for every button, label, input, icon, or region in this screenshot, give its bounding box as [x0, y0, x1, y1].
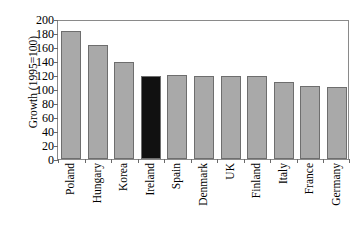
y-tick-label: 140	[22, 56, 54, 68]
x-tick-label: Germany	[328, 163, 344, 206]
x-tick-label: Poland	[62, 163, 78, 195]
bar	[194, 76, 214, 159]
y-tick-label: 60	[22, 112, 54, 124]
x-tick-label: Italy	[275, 163, 291, 184]
bar	[167, 75, 187, 159]
bar-chart-figure: Growth (1995=100) 0204060801001201401601…	[0, 0, 362, 236]
x-tick-label-text: Hungary	[89, 163, 105, 203]
x-tick-label: Spain	[168, 163, 184, 189]
x-tick-mark	[349, 159, 350, 163]
x-tick-label: France	[301, 163, 317, 194]
x-tick-label-text: Spain	[168, 163, 184, 189]
x-tick-label: Finland	[248, 163, 264, 198]
y-tick-label: 200	[22, 14, 54, 26]
y-tick-mark	[54, 34, 58, 35]
y-tick-mark	[54, 20, 58, 21]
x-tick-label-text: Denmark	[195, 163, 211, 206]
y-tick-label: 80	[22, 98, 54, 110]
x-tick-label-text: Korea	[115, 163, 131, 191]
x-tick-label: Denmark	[195, 163, 211, 206]
x-tick-label: Hungary	[89, 163, 105, 203]
y-axis-tick-labels: 020406080100120140160180200	[22, 20, 54, 160]
y-tick-label: 120	[22, 70, 54, 82]
bar	[300, 86, 320, 160]
x-tick-label-text: UK	[222, 163, 238, 180]
bar	[274, 82, 294, 159]
x-tick-label-text: Finland	[248, 163, 264, 198]
x-tick-label-text: Poland	[62, 163, 78, 195]
bar	[327, 87, 347, 159]
bar	[114, 62, 134, 159]
y-tick-mark	[54, 146, 58, 147]
bar	[221, 76, 241, 159]
x-tick-label: Ireland	[142, 163, 158, 196]
bar	[88, 45, 108, 159]
bar	[247, 76, 267, 159]
y-tick-label: 0	[22, 154, 54, 166]
bars-container	[58, 21, 348, 159]
y-tick-mark	[54, 118, 58, 119]
y-tick-label: 160	[22, 42, 54, 54]
y-tick-mark	[54, 90, 58, 91]
x-tick-label-text: Italy	[275, 163, 291, 184]
x-axis-tick-labels: PolandHungaryKoreaIrelandSpainDenmarkUKF…	[57, 163, 349, 236]
x-tick-label-text: Germany	[328, 163, 344, 206]
x-tick-label-text: Ireland	[142, 163, 158, 196]
y-tick-label: 20	[22, 140, 54, 152]
bar	[61, 31, 81, 159]
y-tick-mark	[54, 132, 58, 133]
x-tick-label-text: France	[301, 163, 317, 194]
y-tick-mark	[54, 62, 58, 63]
y-tick-label: 180	[22, 28, 54, 40]
y-tick-label: 40	[22, 126, 54, 138]
plot-area	[57, 20, 349, 160]
y-tick-label: 100	[22, 84, 54, 96]
x-tick-label: Korea	[115, 163, 131, 191]
bar	[141, 76, 161, 159]
y-tick-mark	[54, 104, 58, 105]
y-tick-mark	[54, 76, 58, 77]
x-tick-label: UK	[222, 163, 238, 180]
y-tick-mark	[54, 48, 58, 49]
